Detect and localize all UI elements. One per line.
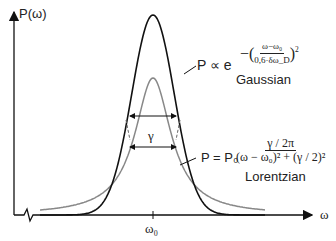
x-axis-label: ω (320, 207, 329, 223)
gaussian-exponent: −(ω−ω₀0,6·δω_D)2 (240, 40, 299, 67)
gamma-label: γ (148, 128, 154, 144)
gaussian-name: Gaussian (236, 72, 291, 87)
gaussian-formula: P ∝ e (197, 57, 232, 73)
line-shape-diagram: P(ω) ω ω₀ γ P ∝ e −(ω−ω₀0,6·δω_D)2 Gauss… (0, 0, 336, 241)
omega0-label: ω₀ (145, 221, 158, 237)
lorentzian-curve (40, 78, 265, 210)
lorentzian-name: Lorentzian (245, 169, 306, 184)
lorentzian-lhs: P = P₀ (201, 150, 238, 165)
lorentzian-fraction: γ / 2π(ω − ω₀)² + (γ / 2)² (236, 137, 325, 164)
gaussian-curve (40, 15, 265, 215)
gaussian-leader (184, 66, 196, 74)
plot-canvas (0, 0, 336, 241)
y-axis-label: P(ω) (19, 6, 46, 21)
